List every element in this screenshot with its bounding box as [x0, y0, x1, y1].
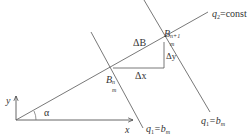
delta-b-label: ΔB [133, 38, 146, 48]
delta-x-label: Δx [135, 71, 146, 81]
x-axis-label: x [125, 125, 129, 135]
point-bn1-label: Bn+1m [164, 29, 182, 39]
delta-y-label: Δy [166, 52, 176, 61]
y-axis-label: y [6, 96, 10, 106]
q1-right-label: q1=bm [201, 116, 225, 127]
angle-label: α [44, 108, 49, 118]
angle-arc [34, 111, 36, 120]
point-bn-label: Bnm [106, 75, 119, 85]
q1-left-label: q1=bm [146, 124, 170, 135]
q2-const-label: q2=const [212, 9, 247, 20]
